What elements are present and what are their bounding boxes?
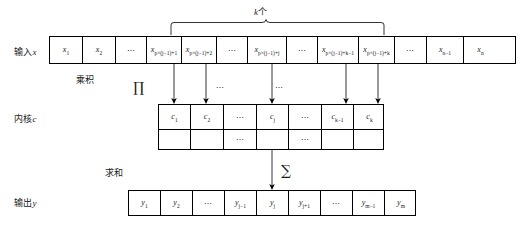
k-span-brace (171, 20, 384, 36)
product-arrows (174, 64, 378, 101)
connector-overlay (0, 0, 521, 240)
diagram-canvas: k个 输入x 内核c 输出y 乘积 ∏ 求和 ∑ ⋯ ⋯ x1x2⋯xp×(j−… (0, 0, 521, 240)
